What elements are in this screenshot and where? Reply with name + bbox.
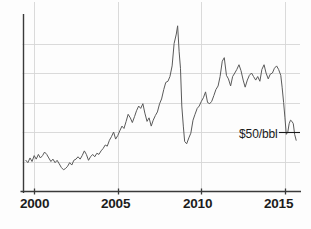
xtick-label-2005: 2005 bbox=[101, 197, 130, 211]
xtick-label-2015: 2015 bbox=[264, 197, 293, 211]
xtick-label-2000: 2000 bbox=[20, 197, 49, 211]
oil-price-chart-figure: 2000 2005 2010 2015 $50/bbl bbox=[0, 0, 311, 229]
horizontal-gridlines bbox=[23, 45, 301, 163]
xtick-label-2010: 2010 bbox=[183, 197, 212, 211]
chart-plot-area bbox=[0, 0, 311, 229]
price-annotation-label: $50/bbl bbox=[239, 128, 278, 140]
price-line-series bbox=[26, 26, 296, 170]
